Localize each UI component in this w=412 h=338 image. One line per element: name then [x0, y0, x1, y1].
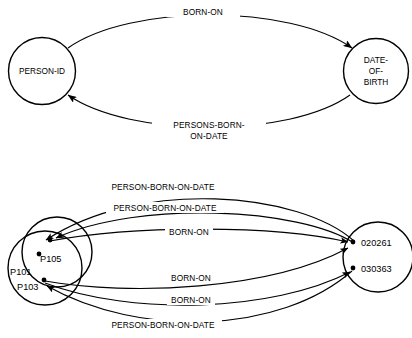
edge-label-persons-born-on-date-line2: ON-DATE	[190, 131, 228, 141]
edge-born-on-1[interactable]: BORN-ON	[50, 226, 348, 242]
member-label-p101: P101	[10, 267, 31, 277]
edge-label-6: PERSON-BORN-ON-DATE	[111, 320, 215, 330]
edge-persons-born-on-date[interactable]: PERSONS-BORN- ON-DATE	[68, 95, 350, 141]
member-dot-030363	[351, 266, 356, 271]
node-date-of-birth[interactable]: DATE- OF- BIRTH	[344, 39, 409, 104]
node-label-person-id: PERSON-ID	[19, 66, 65, 76]
member-dot-p103	[42, 278, 47, 283]
edge-label-born-on: BORN-ON	[183, 7, 223, 17]
edge-born-on-2[interactable]: BORN-ON	[45, 248, 348, 288]
node-label-date-of-birth-line2: OF-	[369, 66, 384, 76]
person-set-inner-circle	[22, 217, 92, 287]
member-label-030363: 030363	[361, 264, 392, 274]
edge-label-3: BORN-ON	[169, 227, 209, 237]
diagram-svg: PERSON-ID DATE- OF- BIRTH BORN-ON PERSON…	[0, 0, 412, 338]
diagram-canvas: PERSON-ID DATE- OF- BIRTH BORN-ON PERSON…	[0, 0, 412, 338]
edge-label-1: PERSON-BORN-ON-DATE	[111, 182, 215, 192]
node-label-date-of-birth-line1: DATE-	[364, 55, 389, 65]
edge-label-5: BORN-ON	[171, 295, 211, 305]
member-dot-p105	[48, 238, 53, 243]
node-person-instance-set[interactable]: P101 P103 P105	[8, 217, 92, 305]
edge-label-4: BORN-ON	[171, 273, 211, 283]
edge-label-2: PERSON-BORN-ON-DATE	[113, 203, 217, 213]
edge-label-persons-born-on-date-line1: PERSONS-BORN-	[173, 120, 245, 130]
member-label-020261: 020261	[361, 238, 392, 248]
node-date-instance-set[interactable]: 020261 030363	[343, 222, 412, 292]
member-label-p105: P105	[40, 254, 61, 264]
member-label-p103: P103	[17, 282, 38, 292]
node-label-date-of-birth-line3: BIRTH	[364, 77, 389, 87]
edge-born-on[interactable]: BORN-ON	[68, 6, 352, 48]
panel-type-level: PERSON-ID DATE- OF- BIRTH BORN-ON PERSON…	[9, 6, 409, 141]
node-person-id[interactable]: PERSON-ID	[9, 38, 76, 105]
date-set-circle	[343, 222, 412, 292]
member-dot-020261	[351, 240, 356, 245]
panel-instance-level: PERSON-BORN-ON-DATE PERSON-BORN-ON-DATE …	[8, 181, 412, 330]
edge-path-born-on	[68, 15, 352, 48]
